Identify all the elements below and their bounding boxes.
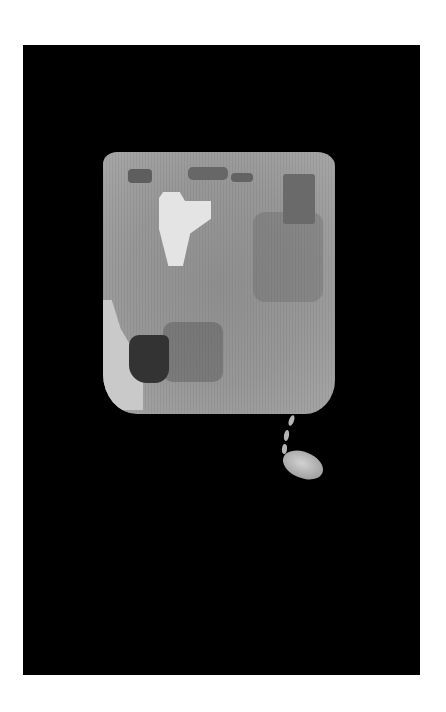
dark-patch [231,173,253,182]
dark-patch [128,169,152,183]
textile-fragment [103,152,335,414]
dark-patch [188,167,228,180]
shadow-patch [163,322,223,382]
dark-corner-patch [129,335,169,383]
dark-patch [283,174,315,224]
shadow-patch [253,212,323,302]
light-patch [159,192,211,266]
